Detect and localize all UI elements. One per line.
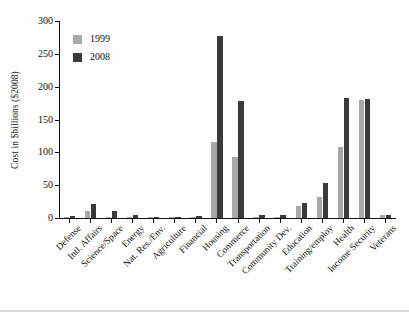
bar-science-space-2008 [112,211,117,218]
legend-item-1999[interactable]: 1999 [73,30,110,48]
bar-defense-1999 [64,217,69,218]
plot-area: 050100150200250300 19992008 [59,21,396,218]
y-tick-label: 0 [48,211,53,224]
y-tick-mark [55,152,59,153]
y-tick-mark [55,21,59,22]
bar-veterans-2008 [386,215,391,218]
bar-agriculture-2008 [175,217,180,218]
legend: 19992008 [73,30,110,66]
bar-defense-2008 [70,216,75,218]
bar-health-2008 [344,98,349,218]
y-tick-label: 250 [38,47,53,60]
plot-inner: 050100150200250300 19992008 [59,21,396,218]
x-axis-tick-labels: DefenseIntl. AffairsScience/SpaceEnergyN… [59,219,396,311]
bar-energy-1999 [127,217,132,218]
bar-financial-2008 [196,216,201,218]
y-tick-label: 200 [38,80,53,93]
bar-energy-2008 [133,215,138,218]
bar-training-employ-2008 [323,183,328,218]
y-tick-mark [55,120,59,121]
legend-swatch-1999 [73,35,82,44]
bar-health-1999 [338,147,343,218]
bar-nat-res-env-2008 [154,217,159,218]
legend-label-1999: 1999 [90,33,110,45]
legend-label-2008: 2008 [90,51,110,63]
bar-agriculture-1999 [169,217,174,218]
y-tick-mark [55,87,59,88]
bar-transportation-1999 [253,217,258,218]
y-axis-title: Cost in $billions ($2008) [6,40,24,200]
bar-education-2008 [302,203,307,218]
y-tick-label: 150 [38,113,53,126]
legend-item-2008[interactable]: 2008 [73,48,110,66]
bar-commerce-2008 [238,101,243,218]
bar-science-space-1999 [106,217,111,218]
bar-commerce-1999 [232,157,237,218]
bar-financial-1999 [190,217,195,218]
y-tick-label: 300 [38,14,53,27]
bar-income-security-1999 [359,100,364,218]
bar-income-security-2008 [365,99,370,218]
y-tick-label: 100 [38,145,53,158]
bar-veterans-1999 [380,215,385,218]
bar-education-1999 [296,206,301,218]
bar-intl-affairs-1999 [85,211,90,218]
bar-nat-res-env-1999 [148,217,153,218]
y-tick-label: 50 [43,178,53,191]
y-axis-title-text: Cost in $billions ($2008) [10,71,20,169]
bar-community-dev-1999 [274,217,279,218]
bar-community-dev-2008 [280,215,285,218]
bar-transportation-2008 [259,215,264,218]
legend-swatch-2008 [73,53,82,62]
bar-intl-affairs-2008 [91,204,96,218]
y-axis-line [59,21,60,218]
y-tick-mark [55,185,59,186]
bar-housing-1999 [211,142,216,218]
bar-training-employ-1999 [317,197,322,218]
bar-housing-2008 [217,36,222,218]
y-tick-mark [55,54,59,55]
bar-chart-figure: Cost in $billions ($2008) 05010015020025… [0,0,409,312]
